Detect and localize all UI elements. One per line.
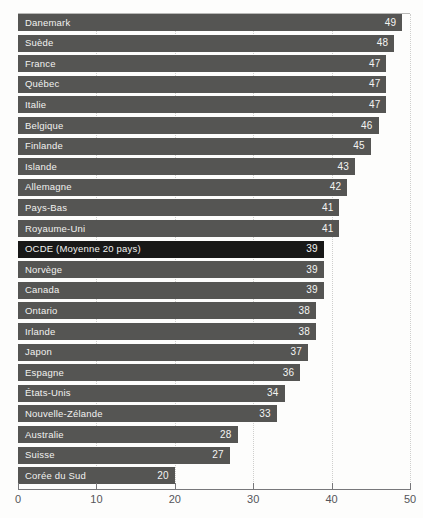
bar-value-label: 37 [291, 347, 303, 357]
bar-category-label: Finlande [25, 141, 63, 151]
bar-row: Belgique46 [0, 117, 423, 134]
bar-value-label: 27 [212, 450, 224, 460]
x-tick-label: 30 [247, 494, 259, 505]
bar-value-label: 28 [220, 430, 232, 440]
bar-row: Nouvelle-Zélande33 [0, 405, 423, 422]
bar[interactable]: Australie28 [18, 426, 238, 443]
bar-category-label: Corée du Sud [25, 471, 86, 481]
bar[interactable]: Espagne36 [18, 364, 300, 381]
bar-category-label: Canada [25, 286, 59, 296]
bar[interactable]: Allemagne42 [18, 179, 347, 196]
bar-category-label: Italie [25, 100, 46, 110]
bar-row: Québec47 [0, 76, 423, 93]
bar[interactable]: Norvège39 [18, 261, 324, 278]
bar-chart: Danemark49Suède48France47Québec47Italie4… [0, 0, 423, 518]
bar-row: Australie28 [0, 426, 423, 443]
bar[interactable]: Suisse27 [18, 447, 230, 464]
bar[interactable]: Pays-Bas41 [18, 199, 339, 216]
bar-row: Corée du Sud20 [0, 467, 423, 484]
bar[interactable]: Finlande45 [18, 138, 371, 155]
bar-row: Finlande45 [0, 138, 423, 155]
bar-row: Suisse27 [0, 447, 423, 464]
bar-row: OCDE (Moyenne 20 pays)39 [0, 241, 423, 258]
x-tick-0 [18, 483, 19, 490]
bar[interactable]: États-Unis34 [18, 385, 285, 402]
bar-value-label: 39 [306, 265, 318, 275]
bar-value-label: 34 [267, 388, 279, 398]
plot-area: Danemark49Suède48France47Québec47Italie4… [0, 14, 423, 482]
bar-category-label: Suède [25, 38, 53, 48]
bar-category-label: Belgique [25, 121, 64, 131]
bar-value-label: 38 [298, 327, 310, 337]
bar[interactable]: Corée du Sud20 [18, 467, 175, 484]
bar-row: Islande43 [0, 158, 423, 175]
bar-category-label: Norvège [25, 265, 62, 275]
x-tick-label: 10 [90, 494, 102, 505]
bar[interactable]: Italie47 [18, 96, 386, 113]
bar-category-label: France [25, 59, 56, 69]
bar-value-label: 49 [385, 18, 397, 28]
bar-row: Japon37 [0, 344, 423, 361]
bar-row: Danemark49 [0, 14, 423, 31]
bar-row: Allemagne42 [0, 179, 423, 196]
bar-category-label: OCDE (Moyenne 20 pays) [25, 244, 141, 254]
bar-value-label: 43 [338, 162, 350, 172]
bar-row: Irlande38 [0, 323, 423, 340]
bar[interactable]: Ontario38 [18, 302, 316, 319]
x-tick-30 [253, 483, 254, 490]
bar-value-label: 39 [306, 285, 318, 295]
x-tick-label: 40 [325, 494, 337, 505]
bar-category-label: Suisse [25, 450, 55, 460]
bar-row: Norvège39 [0, 261, 423, 278]
bar[interactable]: Islande43 [18, 158, 355, 175]
bar-category-label: Ontario [25, 306, 58, 316]
bar-value-label: 47 [369, 100, 381, 110]
bar[interactable]: Royaume-Uni41 [18, 220, 339, 237]
bar[interactable]: Japon37 [18, 344, 308, 361]
bar-value-label: 20 [157, 471, 169, 481]
bar-category-label: Allemagne [25, 183, 72, 193]
bar-row: France47 [0, 55, 423, 72]
bar-category-label: Australie [25, 430, 64, 440]
bar[interactable]: Danemark49 [18, 14, 402, 31]
bar[interactable]: France47 [18, 55, 386, 72]
bar-row: Italie47 [0, 96, 423, 113]
bar-value-label: 41 [322, 224, 334, 234]
bar-row: Pays-Bas41 [0, 199, 423, 216]
x-tick-label: 20 [169, 494, 181, 505]
bar[interactable]: Belgique46 [18, 117, 379, 134]
bar-category-label: Irlande [25, 327, 55, 337]
bar-value-label: 42 [330, 182, 342, 192]
bar-category-label: Québec [25, 80, 59, 90]
x-axis-line [18, 489, 410, 490]
bar-value-label: 46 [361, 121, 373, 131]
bar-row: États-Unis34 [0, 385, 423, 402]
bar-value-label: 33 [259, 409, 271, 419]
bar-category-label: Royaume-Uni [25, 224, 85, 234]
bar-value-label: 36 [283, 368, 295, 378]
bar[interactable]: Suède48 [18, 35, 394, 52]
bar-value-label: 47 [369, 59, 381, 69]
bar[interactable]: OCDE (Moyenne 20 pays)39 [18, 241, 324, 258]
x-tick-50 [410, 483, 411, 490]
bar-row: Ontario38 [0, 302, 423, 319]
bar[interactable]: Québec47 [18, 76, 386, 93]
x-tick-label: 0 [15, 494, 21, 505]
x-tick-label: 50 [404, 494, 416, 505]
bar[interactable]: Canada39 [18, 282, 324, 299]
bar-row: Royaume-Uni41 [0, 220, 423, 237]
bar-row: Suède48 [0, 35, 423, 52]
x-tick-10 [96, 483, 97, 490]
bar-value-label: 47 [369, 79, 381, 89]
bar-category-label: Danemark [25, 18, 70, 28]
bar[interactable]: Irlande38 [18, 323, 316, 340]
bar-category-label: Islande [25, 162, 57, 172]
bar-value-label: 48 [377, 38, 389, 48]
x-tick-20 [175, 483, 176, 490]
bar[interactable]: Nouvelle-Zélande33 [18, 405, 277, 422]
bar-category-label: Espagne [25, 368, 64, 378]
bar-value-label: 39 [306, 244, 318, 254]
bar-value-label: 45 [353, 141, 365, 151]
bar-category-label: États-Unis [25, 389, 71, 399]
bar-value-label: 38 [298, 306, 310, 316]
